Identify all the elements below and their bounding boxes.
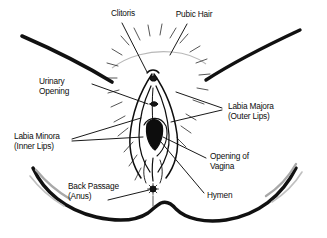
label-labia-majora: Labia Majora (Outer Lips) bbox=[228, 102, 274, 121]
diagram-page: Clitoris Pubic Hair Urinary Opening Labi… bbox=[0, 0, 327, 238]
label-opening-of-vagina-line2: Vagina bbox=[210, 162, 249, 172]
label-hymen: Hymen bbox=[207, 191, 232, 201]
label-hymen-line1: Hymen bbox=[207, 191, 232, 201]
label-urinary-opening-line2: Opening bbox=[39, 87, 69, 97]
label-clitoris-line1: Clitoris bbox=[95, 9, 151, 19]
label-labia-minora: Labia Minora (Inner Lips) bbox=[14, 132, 60, 151]
label-pubic-hair-line1: Pubic Hair bbox=[162, 10, 226, 20]
anatomy-illustration bbox=[0, 0, 327, 238]
label-urinary-opening: Urinary Opening bbox=[39, 77, 69, 96]
anus bbox=[148, 184, 159, 195]
label-pubic-hair: Pubic Hair bbox=[162, 10, 226, 20]
label-back-passage: Back Passage (Anus) bbox=[68, 182, 119, 201]
clitoris-glans bbox=[150, 76, 157, 81]
label-back-passage-line2: (Anus) bbox=[68, 192, 119, 202]
label-labia-minora-line2: (Inner Lips) bbox=[14, 142, 60, 152]
urinary-opening bbox=[150, 102, 158, 107]
label-labia-majora-line2: (Outer Lips) bbox=[228, 112, 274, 122]
label-clitoris: Clitoris bbox=[95, 9, 151, 19]
label-opening-of-vagina: Opening of Vagina bbox=[210, 152, 249, 171]
